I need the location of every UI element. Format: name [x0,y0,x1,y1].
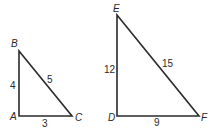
vertex-a-label: A [9,111,17,122]
side-df-length: 9 [154,117,160,128]
vertex-b-label: B [11,38,18,49]
vertex-e-label: E [113,3,120,14]
triangle-abc [19,51,72,116]
triangle-def [117,15,199,116]
vertex-d-label: D [108,112,115,123]
side-de-length: 12 [104,64,116,75]
side-ef-length: 15 [162,58,174,69]
side-bc-length: 5 [47,74,53,85]
vertex-f-label: F [201,112,208,123]
similar-triangles-diagram: B A C 4 5 3 E D F 12 15 9 [0,0,215,132]
vertex-c-label: C [75,112,83,123]
side-ab-length: 4 [10,80,16,91]
side-ac-length: 3 [42,118,48,129]
